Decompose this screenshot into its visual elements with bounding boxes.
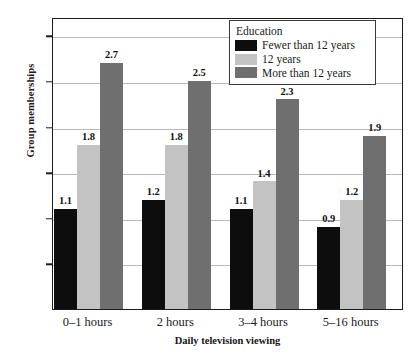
legend-items: Fewer than 12 years12 yearsMore than 12 … — [235, 39, 370, 79]
bar: 2.5 — [188, 81, 211, 309]
bar: 2.7 — [100, 63, 123, 309]
bar: 1.1 — [54, 209, 77, 309]
bar-value-label: 1.8 — [82, 132, 95, 143]
bar-value-label: 1.2 — [147, 187, 160, 198]
bar: 1.4 — [253, 181, 276, 309]
x-tick-label: 5–16 hours — [291, 315, 411, 330]
legend-item: Fewer than 12 years — [235, 39, 370, 52]
bar-value-label: 1.1 — [234, 196, 247, 207]
bar-chart: Group memberships 1.11.82.71.21.82.51.11… — [0, 0, 414, 361]
bar: 0.9 — [317, 227, 340, 309]
bar-value-label: 1.8 — [170, 132, 183, 143]
bar-value-label: 2.7 — [105, 50, 118, 61]
y-tick-mark — [46, 172, 52, 173]
bar-value-label: 0.9 — [322, 214, 335, 225]
bar: 2.3 — [276, 99, 299, 309]
bar-value-label: 1.1 — [59, 196, 72, 207]
legend-swatch — [235, 40, 257, 51]
bar-value-label: 1.9 — [368, 123, 381, 134]
bar-value-label: 2.5 — [193, 68, 206, 79]
bar: 1.2 — [340, 200, 363, 310]
bar: 1.1 — [230, 209, 253, 309]
legend-label: 12 years — [262, 53, 301, 66]
legend-label: More than 12 years — [262, 67, 351, 80]
x-axis-title: Daily television viewing — [52, 335, 403, 346]
legend-swatch — [235, 67, 257, 78]
bar: 1.8 — [165, 145, 188, 309]
y-tick-mark — [46, 127, 52, 128]
y-tick-mark — [46, 81, 52, 82]
y-tick-mark — [46, 36, 52, 37]
y-tick-mark — [46, 218, 52, 219]
y-axis-title: Group memberships — [25, 21, 36, 201]
legend-item: More than 12 years — [235, 67, 370, 80]
legend-swatch — [235, 54, 257, 65]
bar-value-label: 1.4 — [257, 169, 270, 180]
legend-label: Fewer than 12 years — [262, 39, 355, 52]
bar: 1.2 — [142, 200, 165, 310]
bar: 1.9 — [363, 136, 386, 309]
legend-title: Education — [236, 25, 370, 38]
legend: Education Fewer than 12 years12 yearsMor… — [229, 20, 376, 85]
bar: 1.8 — [77, 145, 100, 309]
y-tick-mark — [46, 264, 52, 265]
legend-item: 12 years — [235, 53, 370, 66]
bar-value-label: 2.3 — [280, 87, 293, 98]
bar-value-label: 1.2 — [345, 187, 358, 198]
